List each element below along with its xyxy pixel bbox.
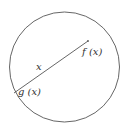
- label-f-of-x: f (x): [81, 46, 102, 57]
- endpoint-f-dot: [87, 40, 89, 42]
- label-g-of-x: g (x): [18, 86, 41, 97]
- circle-chord-diagram: x f (x) g (x): [0, 0, 129, 132]
- chord-label-x: x: [36, 61, 42, 72]
- circle: [10, 12, 120, 122]
